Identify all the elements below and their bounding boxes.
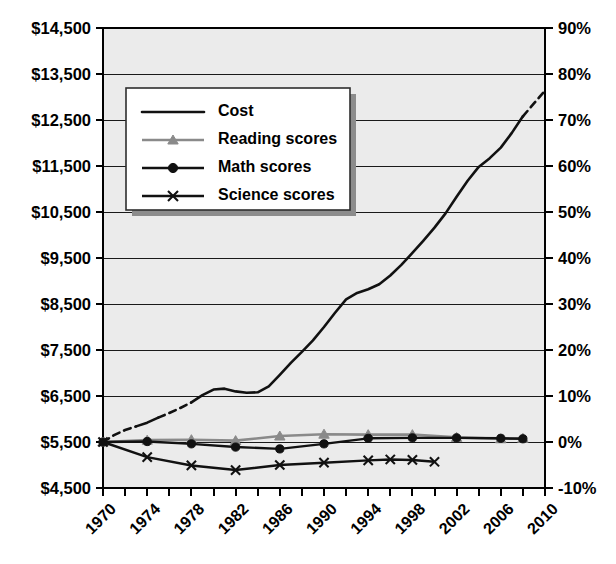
left-axis-tick-label: $9,500 [41, 249, 91, 267]
data-point-marker [364, 434, 372, 442]
legend-swatch-marker [168, 163, 177, 172]
x-axis-tick-label: 2006 [480, 500, 517, 537]
left-axis-tick-label: $14,500 [31, 19, 91, 37]
left-axis-tick-label: $5,500 [41, 433, 91, 451]
left-axis-tick-label: $12,500 [31, 111, 91, 129]
data-point-marker [320, 440, 328, 448]
data-point-marker [187, 440, 195, 448]
x-axis-tick-label: 2002 [436, 500, 473, 537]
data-point-marker [232, 443, 240, 451]
legend-item-label: Math scores [218, 158, 311, 175]
right-axis-tick-label: 50% [558, 203, 591, 221]
right-axis-tick-label: 20% [558, 341, 591, 359]
data-point-marker [453, 434, 461, 442]
right-axis-tick-label: 90% [558, 19, 591, 37]
left-axis-tick-label: $10,500 [31, 203, 91, 221]
x-axis-tick-label: 2010 [524, 500, 561, 537]
x-axis-tick-label: 1982 [215, 500, 252, 537]
x-axis-tick-label: 1990 [303, 500, 340, 537]
x-axis-tick-label: 1970 [82, 500, 119, 537]
data-point-marker [143, 437, 151, 445]
x-axis-tick-label: 1974 [126, 500, 163, 537]
right-axis-tick-label: 30% [558, 295, 591, 313]
right-axis-tick-label: 60% [558, 157, 591, 175]
data-point-marker [408, 434, 416, 442]
legend-item-label: Cost [218, 102, 254, 119]
left-axis-tick-label: $4,500 [41, 479, 91, 497]
right-percent-axis: 90%80%70%60%50%40%30%20%10%0%-10% [545, 19, 597, 497]
chart-container: $14,500$13,500$12,500$11,500$10,500$9,50… [0, 0, 616, 564]
right-axis-tick-label: 0% [558, 433, 582, 451]
data-point-marker [519, 435, 527, 443]
left-axis-tick-label: $6,500 [41, 387, 91, 405]
category-axis-years: 1970197419781982198619901994199820022006… [82, 488, 561, 537]
right-axis-tick-label: 80% [558, 65, 591, 83]
left-axis-tick-label: $11,500 [32, 157, 91, 175]
left-value-axis: $14,500$13,500$12,500$11,500$10,500$9,50… [31, 19, 103, 497]
right-axis-tick-label: -10% [558, 479, 597, 497]
left-axis-tick-label: $7,500 [41, 341, 91, 359]
data-point-marker [276, 445, 284, 453]
legend-item-label: Reading scores [218, 130, 337, 147]
line-chart: $14,500$13,500$12,500$11,500$10,500$9,50… [0, 0, 616, 564]
left-axis-tick-label: $13,500 [31, 65, 91, 83]
x-axis-tick-label: 1994 [347, 500, 384, 537]
x-axis-tick-label: 1998 [391, 500, 428, 537]
data-point-marker [497, 434, 505, 442]
chart-legend: CostReading scoresMath scoresScience sco… [126, 88, 356, 216]
x-axis-tick-label: 1978 [170, 500, 207, 537]
right-axis-tick-label: 10% [558, 387, 591, 405]
left-axis-tick-label: $8,500 [41, 295, 91, 313]
right-axis-tick-label: 70% [558, 111, 591, 129]
x-axis-tick-label: 1986 [259, 500, 296, 537]
right-axis-tick-label: 40% [558, 249, 591, 267]
legend-item-label: Science scores [218, 186, 335, 203]
